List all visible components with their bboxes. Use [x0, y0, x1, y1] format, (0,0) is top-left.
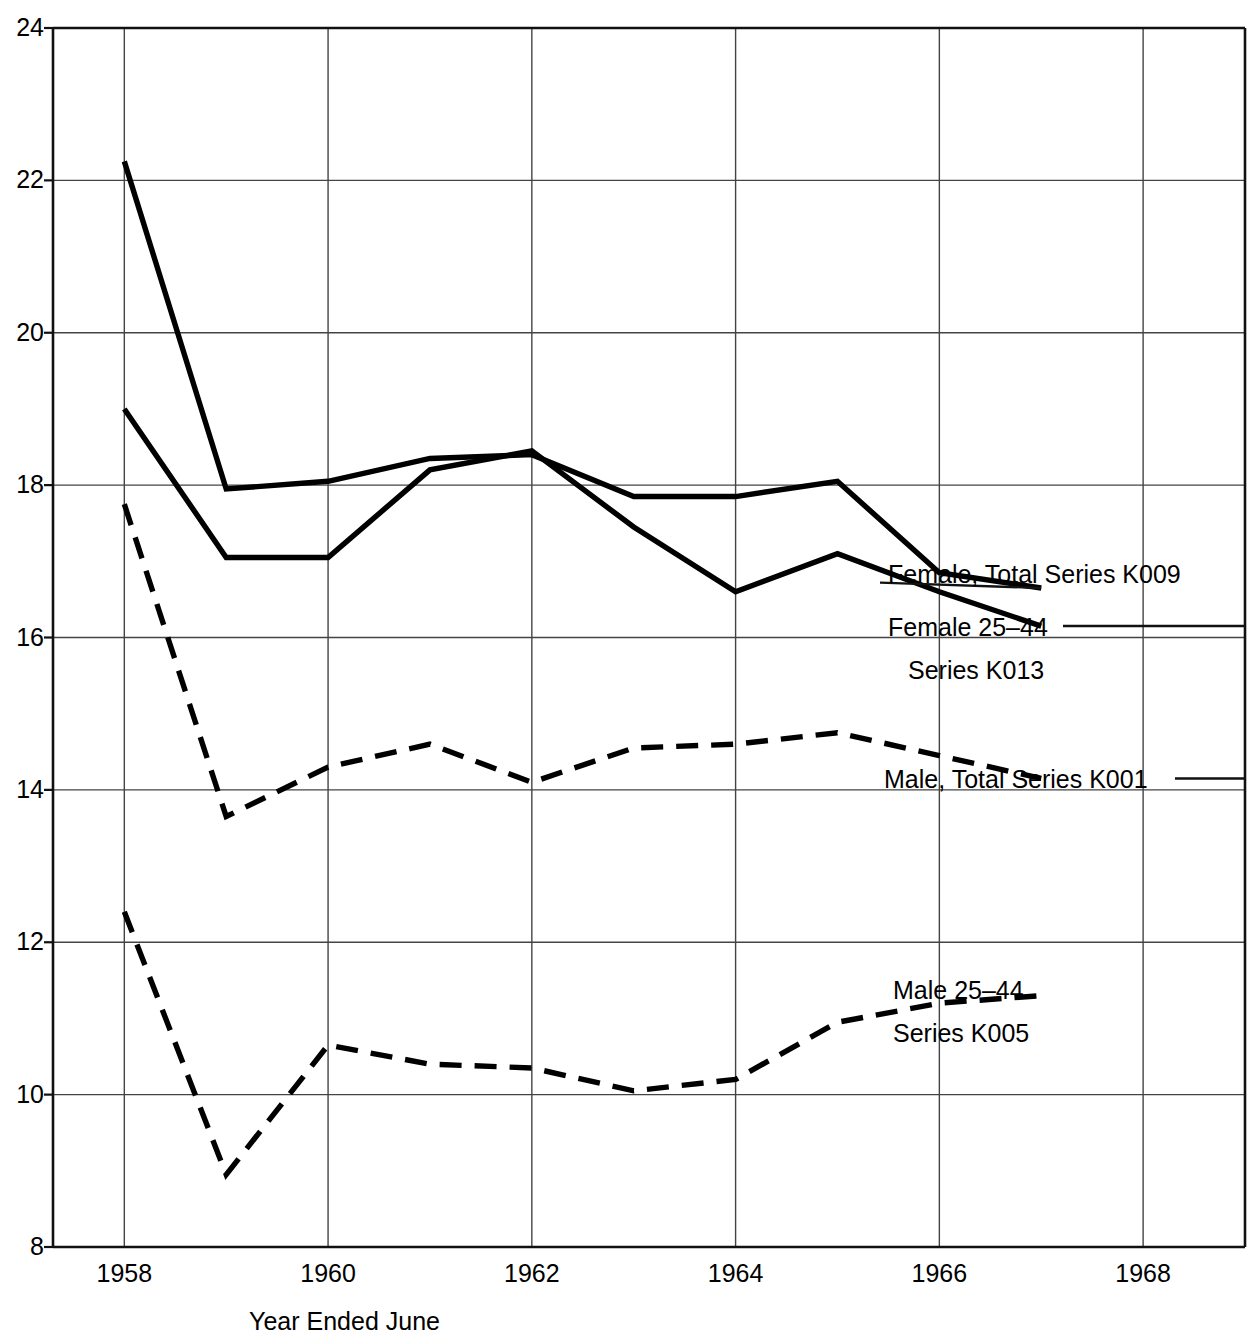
- y-axis-tick-label: 14: [0, 777, 44, 802]
- x-axis-tick-label: 1968: [1088, 1261, 1198, 1286]
- y-axis-tick-label: 20: [0, 320, 44, 345]
- series-label-male-total: Male, Total Series K001: [884, 765, 1148, 793]
- y-axis-tick-label: 12: [0, 929, 44, 954]
- series-label-male-25-44: Male 25–44: [893, 976, 1024, 1004]
- x-axis-tick-label: 1962: [477, 1261, 587, 1286]
- series-label-female-25-44-series: Series K013: [908, 656, 1044, 684]
- series-label-female-total: Female, Total Series K009: [888, 560, 1181, 588]
- y-axis-tick-label: 22: [0, 167, 44, 192]
- series-label-female-25-44: Female 25–44: [888, 613, 1048, 641]
- y-axis-tick-label: 18: [0, 472, 44, 497]
- y-axis-tick-label: 8: [0, 1234, 44, 1259]
- x-axis-tick-label: 1966: [884, 1261, 994, 1286]
- y-axis-tick-label: 16: [0, 625, 44, 650]
- x-axis-title: Year Ended June: [0, 1309, 689, 1334]
- gridlines: [53, 28, 1245, 1247]
- y-axis-tick-label: 24: [0, 15, 44, 40]
- x-axis-tick-label: 1958: [69, 1261, 179, 1286]
- x-axis-tick-label: 1964: [681, 1261, 791, 1286]
- series-label-male-25-44-series: Series K005: [893, 1019, 1029, 1047]
- y-axis-tick-label: 10: [0, 1082, 44, 1107]
- x-axis-tick-label: 1960: [273, 1261, 383, 1286]
